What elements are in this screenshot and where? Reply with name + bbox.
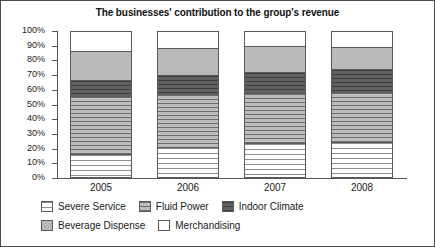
y-tick-mark [52,119,57,120]
x-axis-label-2006: 2006 [148,182,228,193]
legend-item-severe-service[interactable]: Severe Service [41,201,126,212]
chart-legend: Severe ServiceFluid PowerIndoor Climate … [41,197,401,235]
legend-swatch-icon [139,201,151,212]
chart-title: The businesses' contribution to the grou… [1,7,434,18]
bar-segment-indoor-climate[interactable] [71,81,131,97]
bar-segment-severe-service[interactable] [245,144,305,177]
legend-swatch-icon [41,220,53,231]
y-tick-mark [52,31,57,32]
bar-segment-severe-service[interactable] [71,155,131,177]
legend-item-label: Merchandising [175,220,240,231]
y-tick-label: 100% [1,26,45,35]
legend-swatch-icon [222,201,234,212]
legend-item-label: Beverage Dispense [58,220,145,231]
y-tick-label: 70% [1,70,45,79]
bar-2005[interactable] [70,31,132,178]
x-axis-label-2008: 2008 [322,182,402,193]
y-tick-label: 80% [1,55,45,64]
bar-segment-fluid-power[interactable] [158,95,218,148]
bar-segment-merchandising[interactable] [245,32,305,47]
y-tick-mark [52,134,57,135]
bar-segment-indoor-climate[interactable] [158,76,218,96]
x-axis-label-2005: 2005 [61,182,141,193]
bar-segment-beverage-dispense[interactable] [71,52,131,82]
legend-item-indoor-climate[interactable]: Indoor Climate [222,201,304,212]
y-tick-mark [52,105,57,106]
plot-area [58,31,405,178]
y-tick-mark [52,149,57,150]
bar-2007[interactable] [244,31,306,178]
legend-item-label: Severe Service [58,201,126,212]
bar-segment-indoor-climate[interactable] [245,73,305,95]
bar-segment-beverage-dispense[interactable] [245,47,305,72]
y-tick-label: 30% [1,129,45,138]
y-tick-label: 60% [1,85,45,94]
bar-segment-merchandising[interactable] [332,32,392,48]
y-tick-label: 10% [1,158,45,167]
x-axis-label-2007: 2007 [235,182,315,193]
bar-segment-fluid-power[interactable] [245,94,305,144]
y-tick-mark [52,75,57,76]
bar-segment-merchandising[interactable] [158,32,218,49]
bar-segment-fluid-power[interactable] [71,97,131,155]
bar-segment-severe-service[interactable] [332,143,392,177]
y-tick-label: 0% [1,173,45,182]
x-axis-line [57,178,407,179]
y-tick-label: 40% [1,114,45,123]
chart-figure: The businesses' contribution to the grou… [0,0,435,247]
legend-swatch-icon [158,220,170,231]
bar-segment-indoor-climate[interactable] [332,70,392,92]
bar-2008[interactable] [331,31,393,178]
legend-item-label: Fluid Power [156,201,209,212]
legend-item-merchandising[interactable]: Merchandising [158,220,240,231]
bar-segment-beverage-dispense[interactable] [332,48,392,70]
y-tick-mark [52,60,57,61]
bar-segment-severe-service[interactable] [158,148,218,177]
bar-segment-beverage-dispense[interactable] [158,49,218,75]
bar-segment-merchandising[interactable] [71,32,131,52]
legend-swatch-icon [41,201,53,212]
y-tick-label: 50% [1,100,45,109]
legend-row-1: Severe ServiceFluid PowerIndoor Climate [41,197,401,216]
legend-item-beverage-dispense[interactable]: Beverage Dispense [41,220,145,231]
y-tick-mark [52,178,57,179]
y-tick-mark [52,46,57,47]
legend-item-fluid-power[interactable]: Fluid Power [139,201,209,212]
y-tick-mark [52,163,57,164]
y-tick-label: 20% [1,144,45,153]
y-tick-mark [52,90,57,91]
legend-row-2: Beverage DispenseMerchandising [41,216,401,235]
bar-segment-fluid-power[interactable] [332,93,392,143]
bar-2006[interactable] [157,31,219,178]
legend-item-label: Indoor Climate [239,201,304,212]
y-tick-label: 90% [1,41,45,50]
